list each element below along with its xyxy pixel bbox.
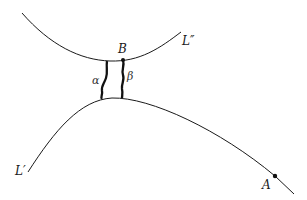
label-beta: β (126, 70, 133, 83)
point-a-dot (273, 174, 277, 178)
label-a: A (261, 178, 271, 192)
label-b: B (117, 42, 127, 56)
point-b-dot (121, 58, 125, 62)
label-l-prime: L′ (14, 164, 26, 178)
curve-l-prime (28, 98, 294, 194)
diagram-canvas: L″ L′ B A α β (0, 0, 307, 200)
label-alpha: α (92, 74, 100, 87)
path-beta (122, 60, 124, 98)
path-alpha (101, 61, 107, 99)
curve-l-double-prime (22, 13, 181, 61)
label-l-double-prime: L″ (181, 34, 195, 48)
